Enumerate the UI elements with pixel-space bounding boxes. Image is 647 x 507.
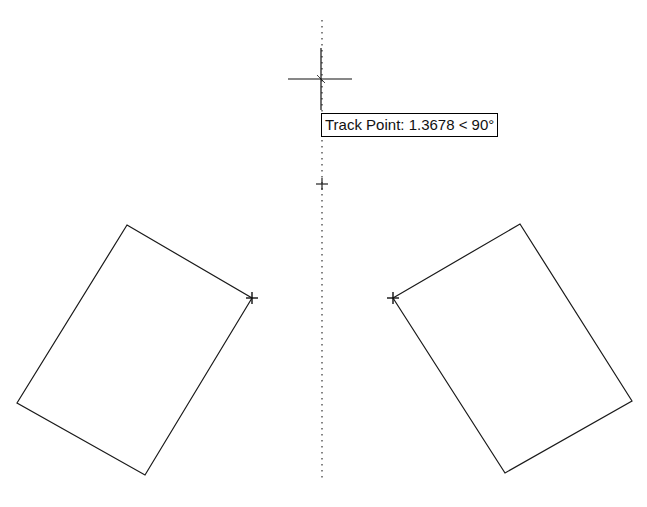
snap-marker-left-icon: [246, 292, 258, 304]
right-rectangle[interactable]: [393, 224, 632, 473]
left-rectangle[interactable]: [17, 225, 252, 475]
tooltip-text: Track Point: 1.3678 < 90°: [325, 116, 494, 133]
crosshair-cursor-icon: [288, 48, 352, 110]
track-point-marker-icon: [316, 178, 328, 190]
track-point-tooltip: Track Point: 1.3678 < 90°: [321, 113, 498, 137]
snap-marker-right-icon: [387, 292, 399, 304]
drawing-canvas[interactable]: [0, 0, 647, 507]
